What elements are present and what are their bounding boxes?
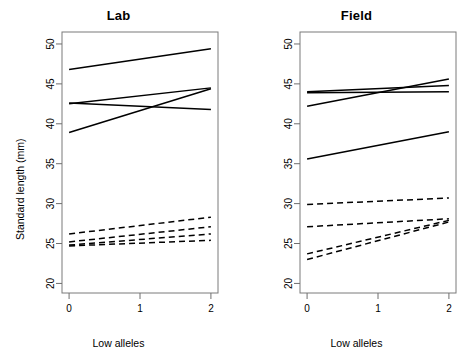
y-tick-label: 30 [46, 198, 57, 210]
y-tick-label: 20 [284, 277, 295, 289]
series-line-field-solid-4 [307, 132, 449, 159]
figure-root: Lab 20253035404550012 Standard length (m… [0, 0, 475, 357]
y-tick-label: 45 [46, 78, 57, 90]
panel-field: Field 20253035404550012 Standard length … [238, 0, 475, 357]
series-line-lab-solid-3 [69, 103, 211, 109]
x-tick-label: 2 [208, 303, 214, 314]
series-line-field-solid-1 [307, 85, 449, 91]
x-tick-label: 1 [375, 303, 381, 314]
x-tick-label: 0 [66, 303, 72, 314]
plot-area-lab: 20253035404550012 [0, 0, 237, 357]
y-tick-label: 45 [284, 78, 295, 90]
y-tick-label: 30 [284, 198, 295, 210]
series-line-field-dashed-1 [307, 198, 449, 204]
plot-frame [62, 32, 218, 293]
x-tick-label: 0 [304, 303, 310, 314]
y-tick-label: 40 [284, 118, 295, 130]
series-line-field-dashed-4 [307, 222, 449, 260]
y-tick-label: 20 [46, 277, 57, 289]
x-tick-label: 1 [137, 303, 143, 314]
x-axis-label-field: Low alleles [238, 337, 475, 349]
plot-frame [300, 32, 456, 293]
y-tick-label: 50 [46, 38, 57, 50]
series-line-lab-dashed-1 [69, 217, 211, 234]
plot-area-field: 20253035404550012 [238, 0, 475, 357]
y-tick-label: 25 [284, 238, 295, 250]
series-line-lab-solid-1 [69, 49, 211, 70]
x-axis-label-lab: Low alleles [0, 337, 237, 349]
y-tick-label: 25 [46, 238, 57, 250]
y-tick-label: 35 [284, 158, 295, 170]
x-tick-label: 2 [446, 303, 452, 314]
y-tick-label: 50 [284, 38, 295, 50]
y-tick-label: 35 [46, 158, 57, 170]
panel-lab: Lab 20253035404550012 Standard length (m… [0, 0, 237, 357]
y-axis-label-lab: Standard length (mm) [14, 138, 26, 240]
y-tick-label: 40 [46, 118, 57, 130]
